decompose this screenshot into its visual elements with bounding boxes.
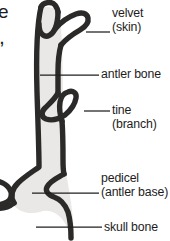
cropped-edge-letter: e: [0, 2, 9, 21]
label-tine-line1: tine: [112, 104, 157, 118]
label-tine: tine (branch): [112, 104, 157, 131]
label-velvet-line1: velvet: [112, 7, 143, 21]
cropped-edge-comma: ,: [0, 26, 5, 47]
label-tine-line2: (branch): [112, 118, 157, 132]
label-antler-bone: antler bone: [101, 68, 161, 82]
pedicel-left-wave-fragment: [0, 181, 11, 205]
antler-right-edge-upper-stroke: [58, 45, 61, 93]
label-velvet-line2: (skin): [112, 21, 143, 35]
label-pedicel-line2: (antler base): [101, 186, 168, 200]
label-pedicel: pedicel (antler base): [101, 172, 168, 199]
label-pedicel-line1: pedicel: [101, 172, 168, 186]
label-antler-bone-line1: antler bone: [101, 68, 161, 82]
label-skull-bone-line1: skull bone: [104, 221, 158, 235]
label-velvet: velvet (skin): [112, 7, 143, 34]
antler-right-edge-lower-stroke: [62, 121, 64, 174]
label-skull-bone: skull bone: [104, 221, 158, 235]
